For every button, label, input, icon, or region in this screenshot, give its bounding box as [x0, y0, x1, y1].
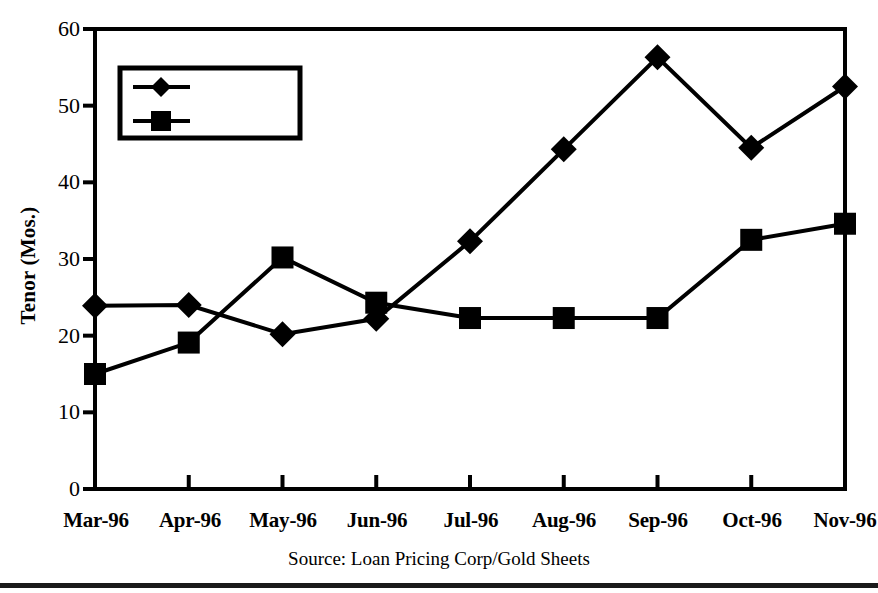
- x-axis-ticks: [95, 475, 845, 489]
- data-point-mexico-jul-96: [459, 307, 481, 329]
- data-point-mexico-aug-96: [553, 307, 575, 329]
- data-point-mexico-apr-96: [178, 332, 200, 354]
- data-point-argentina-nov-96: [832, 74, 858, 100]
- data-point-mexico-mar-96: [84, 363, 106, 385]
- plot-canvas: [0, 0, 878, 593]
- data-point-mexico-nov-96: [834, 213, 856, 235]
- legend-square-marker: [151, 111, 171, 131]
- data-point-mexico-oct-96: [740, 229, 762, 251]
- data-point-argentina-mar-96: [82, 293, 108, 319]
- data-point-argentina-apr-96: [176, 292, 202, 318]
- data-point-mexico-sep-96: [647, 307, 669, 329]
- legend-box: [120, 68, 300, 138]
- data-point-mexico-may-96: [272, 246, 294, 268]
- chart-figure: Tenor (Mos.) 60 50 40 30 20 10 0 Mar-96 …: [0, 0, 878, 593]
- data-point-mexico-jun-96: [365, 292, 387, 314]
- data-point-argentina-may-96: [270, 321, 296, 347]
